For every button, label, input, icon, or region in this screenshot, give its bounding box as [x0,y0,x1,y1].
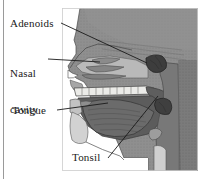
hard-palate [74,86,154,96]
anatomy-figure: Adenoids Nasal cavity Tongue Tonsil [0,0,198,179]
label-nasal-cavity-line1: Nasal [10,67,38,79]
head-cross-section-illustration [62,8,198,171]
label-tonsil: Tonsil [72,151,101,163]
label-nasal-cavity: Nasal cavity [10,43,38,139]
posterior-pharyngeal-wall [178,60,198,171]
left-border-rule [3,0,4,179]
neck-cutout [122,158,148,171]
larynx [154,146,166,172]
label-tongue: Tongue [12,104,46,116]
label-adenoids: Adenoids [10,17,54,29]
